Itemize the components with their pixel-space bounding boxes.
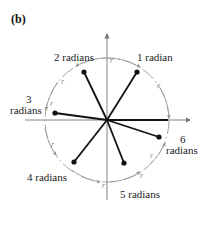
label-1-radian: 1 radian (137, 52, 173, 63)
svg-text:r: r (50, 99, 54, 108)
line-6-radians (107, 120, 159, 137)
line-4-radians (74, 120, 107, 162)
line-1-radian (107, 72, 137, 120)
label-4-radians: 4 radians (27, 172, 67, 183)
svg-text:r: r (51, 140, 55, 149)
svg-text:r: r (150, 151, 154, 160)
svg-text:r: r (110, 56, 114, 65)
svg-text:r: r (140, 171, 144, 180)
label-2-radians: 2 radians (54, 52, 94, 63)
terminal-sides (55, 72, 168, 163)
label-3-radians-unit: radians (10, 105, 42, 116)
line-5-radians (107, 120, 124, 163)
line-3-radians (55, 113, 107, 120)
label-6-radians-unit: radians (166, 145, 198, 156)
svg-text:r: r (61, 77, 65, 86)
label-5-radians: 5 radians (120, 189, 160, 200)
line-2-radians (84, 72, 107, 120)
